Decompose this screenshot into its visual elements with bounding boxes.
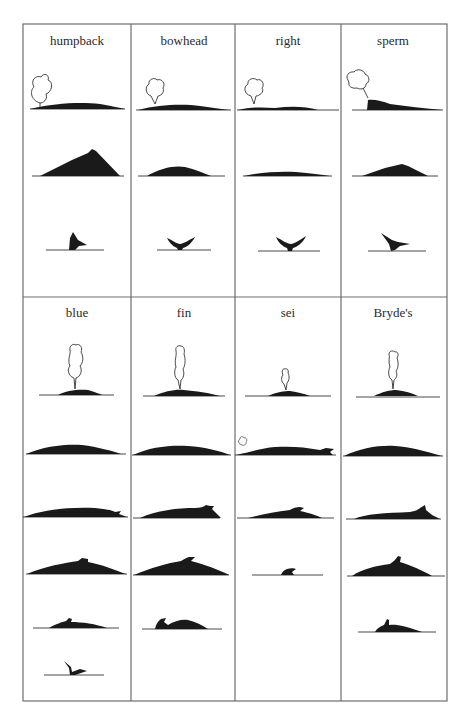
fin-column — [132, 346, 231, 629]
label-right: right — [236, 33, 340, 49]
fin-blow-frame — [143, 346, 225, 396]
label-sei: sei — [236, 305, 340, 321]
sei-column — [235, 369, 336, 575]
arched-back-icon — [40, 149, 120, 176]
fluke-icon — [167, 237, 195, 250]
back-silhouette-icon — [58, 390, 102, 395]
brydes-blow-frame — [356, 351, 440, 397]
fluke-icon — [381, 233, 410, 251]
back-silhouette-icon — [268, 391, 310, 396]
back-icon — [362, 164, 428, 176]
fluke-icon — [276, 236, 306, 251]
fin-arch-frame — [133, 557, 229, 575]
small-blow-icon — [239, 437, 247, 446]
arched-back-fin-icon — [352, 556, 432, 576]
brydes-back-frame — [343, 446, 443, 456]
right-column — [237, 79, 339, 251]
blue-fluke-frame — [44, 661, 104, 675]
back-icon — [26, 445, 121, 454]
back-with-fin-icon — [248, 507, 322, 518]
sei-fin-frame — [252, 568, 323, 575]
brydes-column — [343, 351, 445, 632]
sperm-blow-frame — [347, 70, 443, 110]
dive-icon — [375, 619, 422, 632]
angled-blow-icon — [347, 70, 369, 89]
blow-icon — [146, 79, 164, 104]
humpback-fluke-frame — [46, 232, 104, 250]
bowhead-blow-frame — [136, 79, 231, 110]
back-icon — [133, 446, 230, 455]
blue-blow-frame — [39, 344, 114, 395]
back-silhouette-icon — [30, 103, 125, 109]
blow-icon — [175, 346, 185, 389]
bowhead-column — [136, 79, 231, 250]
back-with-fin-icon — [354, 505, 440, 519]
fluke-icon — [69, 232, 87, 250]
blow-icon — [32, 74, 52, 103]
label-bowhead: bowhead — [132, 33, 236, 49]
right-blow-frame — [237, 79, 339, 110]
brydes-arch-frame — [347, 556, 445, 576]
dive-icon — [49, 618, 107, 628]
sperm-column — [347, 70, 443, 251]
fin-back-frame — [132, 446, 231, 455]
blow-icon — [389, 351, 398, 389]
humpback-column — [30, 74, 125, 250]
arched-back-icon — [27, 558, 126, 574]
humpback-arch-frame — [32, 149, 124, 176]
right-arch-frame — [243, 172, 332, 176]
fin-dive-frame — [142, 618, 222, 629]
bowhead-fluke-frame — [157, 237, 211, 250]
back-silhouette-icon — [374, 390, 418, 396]
rounded-back-icon — [147, 166, 211, 176]
arched-back-fin-icon — [134, 557, 229, 575]
blue-back-frame — [26, 445, 126, 454]
back-with-fin-icon — [236, 447, 334, 455]
diagram-canvas — [0, 0, 468, 723]
bowhead-arch-frame — [138, 166, 225, 176]
label-sperm: sperm — [341, 33, 445, 49]
fin-back-fin-frame — [133, 505, 221, 518]
blue-dive-frame — [33, 618, 119, 628]
blue-arch-frame — [26, 558, 127, 574]
low-back-icon — [244, 172, 330, 176]
back-silhouette-icon — [238, 107, 318, 110]
whale-diagram: humpback bowhead right sperm blue fin se… — [0, 0, 468, 723]
fluke-icon — [64, 661, 87, 675]
blow-icon — [282, 369, 289, 390]
back-icon — [344, 446, 442, 456]
right-fluke-frame — [258, 236, 320, 251]
grid — [23, 24, 447, 701]
back-silhouette-icon — [138, 105, 230, 110]
blow-icon — [68, 344, 82, 389]
blue-back-fin-frame — [23, 508, 128, 517]
back-with-fin-icon — [140, 505, 221, 518]
back-with-fin-icon — [24, 508, 127, 517]
sperm-fluke-frame — [368, 233, 426, 251]
label-humpback: humpback — [25, 33, 129, 49]
brydes-back-fin-frame — [346, 505, 441, 519]
brydes-dive-frame — [358, 619, 436, 632]
humpback-blow-frame — [30, 74, 125, 109]
back-silhouette-icon — [154, 390, 220, 396]
sperm-arch-frame — [352, 164, 438, 176]
blue-column — [23, 344, 128, 675]
blow-icon — [245, 79, 263, 104]
sei-back-fin-frame — [237, 507, 334, 518]
label-fin: fin — [132, 305, 236, 321]
dive-icon — [155, 618, 208, 629]
back-silhouette-icon — [367, 100, 443, 110]
sei-back-frame — [235, 437, 336, 455]
label-blue: blue — [25, 305, 129, 321]
label-brydes: Bryde's — [341, 305, 445, 321]
sei-blow-frame — [245, 369, 331, 396]
fin-only-icon — [281, 568, 296, 575]
